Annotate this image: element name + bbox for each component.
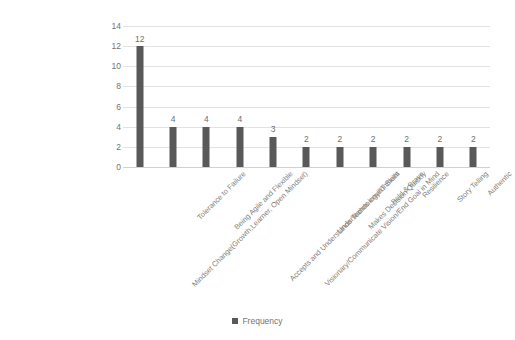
chart-legend: Frequency bbox=[0, 317, 515, 326]
bar[interactable] bbox=[236, 127, 243, 167]
x-axis-category-label: Story Telling bbox=[456, 170, 490, 204]
x-axis-category-label: Tolerance to Failure bbox=[196, 170, 247, 221]
bar-group[interactable]: 2 bbox=[357, 26, 390, 167]
y-axis-tick-label: 4 bbox=[116, 122, 121, 131]
bar[interactable] bbox=[470, 147, 477, 167]
x-axis-category-label: Mindset Change(Growth,Learner, Open Mind… bbox=[190, 170, 308, 288]
bar-value-label: 2 bbox=[371, 135, 376, 144]
bar[interactable] bbox=[170, 127, 177, 167]
bar-value-label: 4 bbox=[237, 115, 242, 124]
bar-chart: 14121086420 124443222222 Mindset Change(… bbox=[0, 0, 515, 340]
bar-value-label: 2 bbox=[438, 135, 443, 144]
bar[interactable] bbox=[303, 147, 310, 167]
bar-group[interactable]: 2 bbox=[323, 26, 356, 167]
y-axis-tick-label: 14 bbox=[112, 22, 121, 31]
bar-value-label: 2 bbox=[471, 135, 476, 144]
bar[interactable] bbox=[270, 137, 277, 167]
y-axis-tick-label: 0 bbox=[116, 163, 121, 172]
bar-group[interactable]: 2 bbox=[290, 26, 323, 167]
bar[interactable] bbox=[336, 147, 343, 167]
bar[interactable] bbox=[136, 46, 143, 167]
bar-group[interactable]: 12 bbox=[123, 26, 156, 167]
legend-label: Frequency bbox=[242, 317, 282, 326]
legend-swatch-icon bbox=[232, 318, 238, 324]
gridline bbox=[123, 167, 490, 168]
bar-group[interactable]: 4 bbox=[190, 26, 223, 167]
y-axis-tick-label: 2 bbox=[116, 143, 121, 152]
bar-value-label: 4 bbox=[171, 115, 176, 124]
bar[interactable] bbox=[403, 147, 410, 167]
x-axis-category-labels: Mindset Change(Growth,Learner, Open Mind… bbox=[123, 170, 490, 300]
bar-value-label: 2 bbox=[337, 135, 342, 144]
bar-value-label: 4 bbox=[204, 115, 209, 124]
bar-value-label: 12 bbox=[135, 35, 144, 44]
y-axis-tick-label: 12 bbox=[112, 42, 121, 51]
y-axis-tick-label: 10 bbox=[112, 62, 121, 71]
bar[interactable] bbox=[436, 147, 443, 167]
x-axis-category-label: Authentic bbox=[486, 170, 513, 197]
bar-group[interactable]: 4 bbox=[156, 26, 189, 167]
bar[interactable] bbox=[203, 127, 210, 167]
bar-value-label: 2 bbox=[404, 135, 409, 144]
bar[interactable] bbox=[370, 147, 377, 167]
bar-group[interactable]: 2 bbox=[457, 26, 490, 167]
bar-value-label: 2 bbox=[304, 135, 309, 144]
bar-group[interactable]: 2 bbox=[390, 26, 423, 167]
y-axis: 14121086420 bbox=[103, 26, 121, 167]
bar-group[interactable]: 4 bbox=[223, 26, 256, 167]
y-axis-tick-label: 6 bbox=[116, 102, 121, 111]
bar-group[interactable]: 3 bbox=[256, 26, 289, 167]
bars-layer: 124443222222 bbox=[123, 26, 490, 167]
bar-value-label: 3 bbox=[271, 125, 276, 134]
y-axis-tick-label: 8 bbox=[116, 82, 121, 91]
bar-group[interactable]: 2 bbox=[423, 26, 456, 167]
